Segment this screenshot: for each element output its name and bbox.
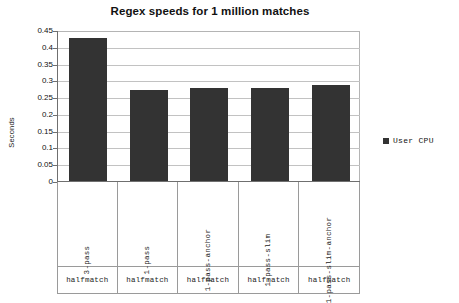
x-axis-group-cell: halfmatch	[118, 267, 179, 293]
legend-swatch-user-cpu	[383, 138, 389, 144]
x-axis-group-cell: halfmatch	[57, 267, 118, 293]
legend: User CPU	[383, 136, 434, 145]
y-axis-title-text: Seconds	[7, 117, 16, 148]
x-axis-category-cell: 1-pass-anchor	[178, 182, 239, 266]
y-axis-tick-label: 0.35	[19, 61, 53, 69]
y-axis-tick-label: 0.45	[19, 27, 53, 35]
y-axis-tick-labels: 0.450.40.350.30.250.20.150.10.050	[17, 31, 53, 182]
y-axis-tick-label: 0.25	[19, 94, 53, 102]
y-axis-tick-label: 0.1	[19, 144, 53, 152]
x-axis-group-label: halfmatch	[299, 267, 359, 293]
bar[interactable]	[69, 38, 107, 181]
y-axis-tick-label: 0.05	[19, 161, 53, 169]
y-axis-tick-label: 0.3	[19, 77, 53, 85]
bar-slot	[300, 31, 361, 181]
bar-slot	[58, 31, 119, 181]
bar[interactable]	[312, 85, 350, 181]
bar[interactable]	[251, 88, 289, 181]
bar[interactable]	[130, 90, 168, 181]
y-axis-tick-label: 0	[19, 178, 53, 186]
x-axis-category-cell: 3-pass	[57, 182, 118, 266]
plot-area	[57, 31, 360, 182]
x-axis-group-cell: halfmatch	[299, 267, 360, 293]
x-axis-group-label: halfmatch	[118, 267, 178, 293]
x-axis-category-cell: 1-pass	[118, 182, 179, 266]
x-axis-category-cell: 1-pass-slim-anchor	[299, 182, 360, 266]
legend-label-user-cpu: User CPU	[393, 136, 434, 145]
bar-slot	[240, 31, 301, 181]
bar-chart: Regex speeds for 1 million matches Secon…	[0, 0, 459, 303]
chart-title: Regex speeds for 1 million matches	[0, 5, 420, 17]
x-axis-group-label: halfmatch	[178, 267, 238, 293]
x-axis-category-labels: 3-pass1-pass1-pass-anchor1-pass-slim1-pa…	[57, 182, 360, 267]
bar-slot	[119, 31, 180, 181]
x-axis-group-label: halfmatch	[239, 267, 299, 293]
y-axis-tick-label: 0.4	[19, 44, 53, 52]
y-axis-tick-label: 0.15	[19, 128, 53, 136]
x-axis-group-labels: halfmatchhalfmatchhalfmatchhalfmatchhalf…	[57, 267, 360, 294]
x-axis-group-cell: halfmatch	[239, 267, 300, 293]
y-axis-tick-label: 0.2	[19, 111, 53, 119]
x-axis-group-cell: halfmatch	[178, 267, 239, 293]
x-axis-category-cell: 1-pass-slim	[239, 182, 300, 266]
x-axis-group-label: halfmatch	[58, 267, 117, 293]
bar-slot	[179, 31, 240, 181]
bar[interactable]	[190, 88, 228, 181]
